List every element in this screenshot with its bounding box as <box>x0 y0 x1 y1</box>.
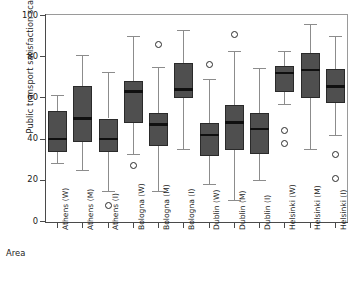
x-tick-2 <box>108 223 109 228</box>
median-line <box>73 117 92 120</box>
y-axis-title: Public transport satisfaction scale <box>25 0 35 153</box>
whisker-lower <box>234 150 235 199</box>
y-tick-100 <box>40 15 45 16</box>
whisker-cap-lower <box>51 163 64 164</box>
outlier-point-1 <box>281 140 288 147</box>
whisker-cap-lower <box>76 170 89 171</box>
outlier-point-0 <box>155 41 162 48</box>
whisker-cap-upper <box>127 36 140 37</box>
box-iqr <box>200 123 219 156</box>
y-tick-80 <box>40 56 45 57</box>
x-tick-10 <box>310 223 311 228</box>
x-axis-label-0: Athens (W) <box>61 188 70 230</box>
box-iqr <box>124 81 143 122</box>
x-tick-9 <box>284 223 285 228</box>
whisker-lower <box>259 154 260 181</box>
median-line <box>48 138 67 141</box>
x-tick-6 <box>209 223 210 228</box>
x-tick-1 <box>82 223 83 228</box>
whisker-cap-upper <box>51 95 64 96</box>
y-tick-label-100: 100 <box>22 10 38 20</box>
whisker-cap-lower <box>278 104 291 105</box>
y-tick-60 <box>40 97 45 98</box>
whisker-lower <box>310 98 311 150</box>
outlier-point-0 <box>332 151 339 158</box>
whisker-cap-lower <box>177 149 190 150</box>
median-line <box>326 85 345 88</box>
median-line <box>149 123 168 126</box>
x-tick-5 <box>183 223 184 228</box>
median-line <box>301 69 320 72</box>
y-tick-label-20: 20 <box>27 174 38 184</box>
x-axis-title: Area <box>6 248 25 258</box>
whisker-lower <box>183 98 184 150</box>
whisker-upper <box>57 95 58 111</box>
box-iqr <box>250 113 269 153</box>
whisker-lower <box>133 123 134 154</box>
whisker-upper <box>108 72 109 118</box>
whisker-cap-upper <box>304 24 317 25</box>
median-line <box>124 90 143 93</box>
x-axis-label-5: Bologna (I) <box>187 189 196 230</box>
whisker-cap-upper <box>177 30 190 31</box>
median-line <box>174 88 193 91</box>
x-tick-8 <box>259 223 260 228</box>
whisker-upper <box>234 51 235 106</box>
outlier-point-1 <box>332 175 339 182</box>
whisker-upper <box>133 36 134 81</box>
x-axis-label-1: Athens (M) <box>86 189 95 230</box>
whisker-lower <box>158 146 159 190</box>
whisker-cap-upper <box>102 72 115 73</box>
whisker-cap-upper <box>278 51 291 52</box>
whisker-cap-lower <box>152 191 165 192</box>
whisker-cap-upper <box>329 36 342 37</box>
y-tick-40 <box>40 139 45 140</box>
box-iqr <box>174 63 193 98</box>
whisker-lower <box>209 156 210 185</box>
box-plot-chart: Public transport satisfaction scale Area… <box>0 0 353 281</box>
whisker-lower <box>82 142 83 170</box>
median-line <box>225 121 244 124</box>
whisker-cap-upper <box>228 51 241 52</box>
outlier-point-0 <box>105 202 112 209</box>
whisker-cap-upper <box>203 79 216 80</box>
y-axis-line <box>45 14 46 223</box>
y-tick-20 <box>40 180 45 181</box>
y-tick-label-80: 80 <box>27 51 38 61</box>
box-iqr <box>73 86 92 143</box>
whisker-upper <box>335 36 336 69</box>
whisker-upper <box>158 67 159 113</box>
whisker-cap-lower <box>203 184 216 185</box>
x-axis-label-3: Bologna (W) <box>137 183 146 230</box>
outlier-point-0 <box>130 162 137 169</box>
median-line <box>250 128 269 131</box>
y-tick-label-60: 60 <box>27 92 38 102</box>
whisker-upper <box>183 30 184 63</box>
whisker-cap-lower <box>228 200 241 201</box>
whisker-cap-lower <box>102 191 115 192</box>
outlier-point-0 <box>231 31 238 38</box>
x-axis-label-8: Dublin (I) <box>263 195 272 230</box>
whisker-upper <box>259 68 260 113</box>
box-iqr <box>99 119 118 153</box>
box-iqr <box>301 53 320 98</box>
whisker-cap-upper <box>152 67 165 68</box>
x-axis-label-6: Dublin (W) <box>212 190 221 230</box>
x-axis-label-7: Dublin (M) <box>238 191 247 230</box>
plot-frame-top <box>45 14 348 15</box>
x-axis-label-2: Athens (I) <box>111 193 120 230</box>
whisker-cap-upper <box>76 55 89 56</box>
box-iqr <box>48 111 67 152</box>
whisker-lower <box>284 92 285 104</box>
x-tick-4 <box>158 223 159 228</box>
whisker-cap-lower <box>329 135 342 136</box>
whisker-upper <box>310 24 311 53</box>
whisker-cap-lower <box>253 180 266 181</box>
whisker-upper <box>284 51 285 66</box>
x-axis-label-10: Helsinki (M) <box>313 185 322 230</box>
whisker-lower <box>335 103 336 135</box>
x-axis-label-11: Helsinki (I) <box>339 190 348 230</box>
whisker-cap-upper <box>253 68 266 69</box>
x-tick-0 <box>57 223 58 228</box>
box-iqr <box>149 113 168 146</box>
